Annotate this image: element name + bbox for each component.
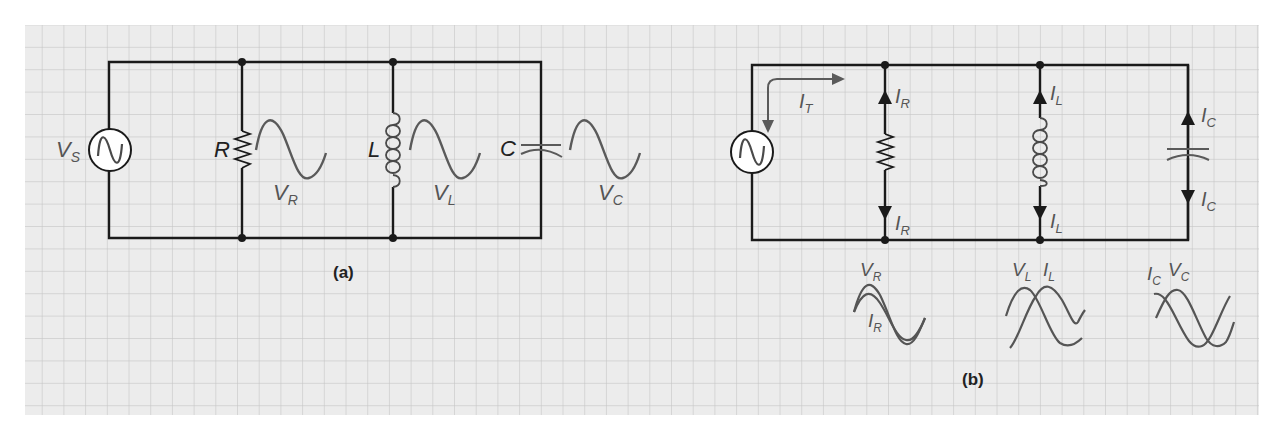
graph-paper-background bbox=[25, 25, 1259, 415]
ac-source-b-icon bbox=[731, 131, 773, 173]
resistor-label: R bbox=[214, 137, 230, 162]
caption-a: (a) bbox=[333, 263, 354, 282]
parallel-rlc-diagram: VS R L C VR VL VC (a) bbox=[0, 0, 1286, 441]
capacitor-label: C bbox=[500, 136, 516, 161]
caption-b: (b) bbox=[962, 370, 984, 389]
ac-source-icon bbox=[89, 129, 131, 171]
inductor-label: L bbox=[368, 137, 380, 162]
